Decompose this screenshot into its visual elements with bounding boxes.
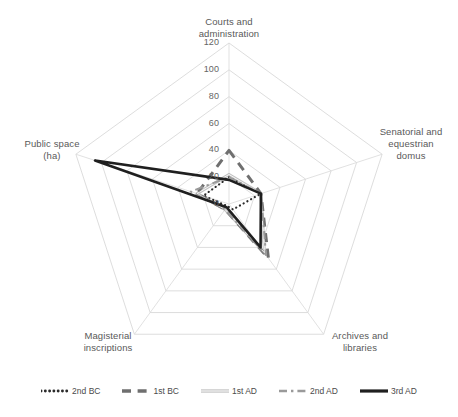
legend-swatch-2nd-ad — [279, 386, 307, 396]
radial-tick-0: 0 — [193, 198, 219, 208]
axis-label-public-space-line1: Public space — [6, 138, 98, 150]
chart-legend: 2nd BC1st BC1st AD2nd AD3rd AD — [0, 380, 458, 402]
axis-label-public-space: Public space (ha) — [6, 138, 98, 162]
legend-label: 1st AD — [232, 386, 257, 396]
axis-label-senatorial: Senatorial and equestrian domus — [366, 126, 456, 162]
series-3rd-ad — [95, 160, 261, 247]
legend-item-3rd-ad[interactable]: 3rd AD — [360, 386, 417, 396]
legend-item-1st-bc[interactable]: 1st BC — [122, 386, 179, 396]
radar-chart: Courts and administration Senatorial and… — [0, 0, 458, 417]
axis-label-senatorial-line1: Senatorial and — [366, 126, 456, 138]
radial-tick-20: 20 — [193, 171, 219, 181]
legend-swatch-1st-ad — [201, 386, 229, 396]
radial-tick-100: 100 — [193, 64, 219, 74]
axis-label-magisterial: Magisterial inscriptions — [62, 330, 154, 354]
legend-label: 1st BC — [153, 386, 179, 396]
legend-label: 2nd AD — [310, 386, 338, 396]
axis-label-archives-line2: libraries — [316, 342, 404, 354]
legend-item-2nd-bc[interactable]: 2nd BC — [41, 386, 100, 396]
radial-tick-80: 80 — [193, 91, 219, 101]
axis-label-magisterial-line1: Magisterial — [62, 330, 154, 342]
radial-tick-40: 40 — [193, 144, 219, 154]
legend-swatch-1st-bc — [122, 386, 150, 396]
radar-plot-area — [0, 0, 458, 417]
legend-label: 2nd BC — [72, 386, 100, 396]
radial-tick-120: 120 — [193, 37, 219, 47]
axis-label-archives: Archives and libraries — [316, 330, 404, 354]
legend-swatch-2nd-bc — [41, 386, 69, 396]
legend-label: 3rd AD — [391, 386, 417, 396]
axis-label-magisterial-line2: inscriptions — [62, 342, 154, 354]
axis-label-archives-line1: Archives and — [316, 330, 404, 342]
axis-label-senatorial-line2: equestrian — [366, 138, 456, 150]
axis-label-public-space-line2: (ha) — [6, 150, 98, 162]
legend-swatch-3rd-ad — [360, 386, 388, 396]
axis-label-senatorial-line3: domus — [366, 150, 456, 162]
legend-item-2nd-ad[interactable]: 2nd AD — [279, 386, 338, 396]
axis-label-courts-line1: Courts and — [179, 16, 279, 28]
radial-tick-60: 60 — [193, 118, 219, 128]
legend-item-1st-ad[interactable]: 1st AD — [201, 386, 257, 396]
